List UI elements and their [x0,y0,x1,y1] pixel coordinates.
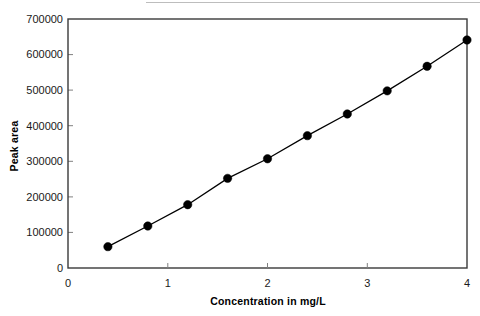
plot-area-frame [68,19,467,268]
y-tick-label-2: 200000 [26,191,63,203]
y-tick-label-4: 400000 [26,120,63,132]
y-tick-label-3: 300000 [26,155,63,167]
data-point [343,110,351,118]
y-axis-tick-labels: 0 100000 200000 300000 400000 500000 600… [26,13,63,274]
series-line-0 [108,40,467,247]
y-tick-label-5: 500000 [26,84,63,96]
y-tick-label-0: 0 [57,262,63,274]
data-point [104,242,112,250]
x-tick-label-0: 0 [65,277,71,289]
x-tick-label-3: 3 [364,277,370,289]
chart-svg: 0 100000 200000 300000 400000 500000 600… [0,0,480,316]
data-point [184,200,192,208]
data-point [263,155,271,163]
data-point [423,62,431,70]
data-point [463,36,471,44]
data-point [223,174,231,182]
calibration-curve-chart: 0 100000 200000 300000 400000 500000 600… [0,0,480,316]
x-tick-label-2: 2 [264,277,270,289]
y-tick-label-7: 700000 [26,13,63,25]
y-tick-label-1: 100000 [26,226,63,238]
y-axis-title: Peak area [8,121,20,172]
x-axis-tick-marks [168,263,367,268]
data-point [144,222,152,230]
x-tick-label-4: 4 [464,277,470,289]
data-series-layer [104,36,471,251]
y-tick-label-6: 600000 [26,48,63,60]
x-tick-label-1: 1 [165,277,171,289]
y-axis-tick-marks [68,55,73,233]
data-point [383,87,391,95]
data-point [303,131,311,139]
x-axis-tick-labels: 0 1 2 3 4 [65,277,470,289]
x-axis-title: Concentration in mg/L [210,295,326,307]
